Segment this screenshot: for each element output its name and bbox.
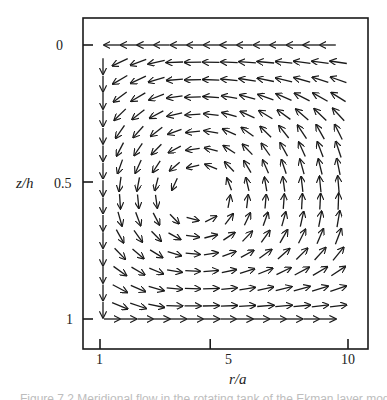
vector-arrow xyxy=(132,110,144,120)
vector-arrow xyxy=(294,61,311,63)
vector-arrow xyxy=(113,285,128,293)
vector-arrow xyxy=(116,230,123,243)
figure-caption: Figure 7.2 Meridional flow in the rotati… xyxy=(20,391,387,400)
y-axis-title: z/h xyxy=(16,176,34,191)
vector-arrow xyxy=(113,92,126,102)
vector-arrow xyxy=(153,213,159,225)
vector-arrow xyxy=(118,212,122,226)
vector-arrow xyxy=(167,96,183,98)
vector-arrow xyxy=(204,235,217,239)
vector-arrow xyxy=(167,113,182,116)
vector-arrow xyxy=(168,146,180,153)
vector-arrow xyxy=(313,267,328,276)
vector-arrow xyxy=(261,143,270,155)
vector-arrow xyxy=(133,249,144,259)
vector-arrow xyxy=(336,141,341,157)
vector-arrow xyxy=(148,304,164,307)
vector-arrow xyxy=(119,177,121,192)
vector-arrow xyxy=(331,266,345,275)
x-tick-label-5: 5 xyxy=(225,353,232,367)
vector-arrow xyxy=(281,160,286,174)
vector-arrow xyxy=(134,230,142,242)
vector-arrow xyxy=(260,127,271,138)
vector-arrow xyxy=(150,111,164,118)
x-tick-label-10: 10 xyxy=(341,353,355,367)
vector-arrow xyxy=(276,94,291,101)
vector-arrow xyxy=(187,217,199,220)
vector-arrow xyxy=(319,176,321,192)
vector-arrow xyxy=(223,129,236,135)
vector-arrow xyxy=(330,77,346,83)
vector-arrow xyxy=(317,229,323,244)
vector-arrow xyxy=(114,109,126,120)
vector-arrow xyxy=(298,125,307,139)
vector-arrow xyxy=(239,62,256,63)
vector-arrow xyxy=(152,231,162,241)
vector-arrow xyxy=(300,211,303,226)
vector-arrow xyxy=(170,162,180,171)
vector-arrow xyxy=(204,148,217,151)
vector-arrow xyxy=(295,267,310,275)
vector-arrow xyxy=(312,305,329,307)
vector-arrow xyxy=(242,144,252,154)
vector-arrow xyxy=(149,94,164,100)
vector-arrow xyxy=(319,211,322,227)
vector-arrow xyxy=(221,62,238,63)
vector-arrow xyxy=(301,177,303,192)
vector-arrow xyxy=(223,146,235,154)
vector-arrow xyxy=(221,79,238,81)
vector-arrow xyxy=(240,269,255,274)
vector-arrow xyxy=(131,285,146,291)
vector-arrow xyxy=(138,195,139,209)
vector-arrow xyxy=(299,142,306,157)
vector-arrow xyxy=(205,164,217,169)
vector-arrow xyxy=(335,124,343,139)
vector-arrow xyxy=(166,306,182,307)
vector-arrow xyxy=(318,159,322,175)
vector-arrow xyxy=(131,76,146,83)
vector-arrow xyxy=(185,97,201,98)
vector-arrow xyxy=(294,305,311,307)
vector-arrow xyxy=(228,195,230,208)
vector-arrow xyxy=(170,214,179,224)
vector-arrow xyxy=(261,230,270,242)
vector-arrow xyxy=(246,178,249,191)
vector-arrow xyxy=(241,128,253,137)
vector-arrow xyxy=(317,142,323,157)
vector-arrow xyxy=(314,109,326,121)
vector-arrow xyxy=(282,212,286,226)
vector-arrow xyxy=(222,251,236,256)
vector-arrow xyxy=(333,108,345,121)
vector-arrow xyxy=(337,158,340,175)
vector-arrow xyxy=(221,96,237,99)
vector-arrow xyxy=(275,61,292,63)
vector-arrow xyxy=(221,288,237,290)
vector-arrow xyxy=(204,270,219,271)
vector-arrow xyxy=(149,286,164,290)
vector-arrow xyxy=(331,93,345,102)
vector-arrow xyxy=(279,126,289,138)
vector-arrow xyxy=(313,93,328,101)
vector-arrow xyxy=(203,97,219,98)
vector-arrow xyxy=(172,178,177,190)
vector-arrow xyxy=(244,161,251,173)
vector-arrow xyxy=(280,230,288,243)
vector-arrow xyxy=(294,286,310,291)
vector-arrow xyxy=(258,94,274,100)
plot-frame xyxy=(83,18,368,349)
vector-arrow xyxy=(276,78,293,82)
vector-arrow xyxy=(223,232,235,240)
vector-arrow xyxy=(186,235,199,237)
axis-ticks xyxy=(83,45,348,349)
vector-arrow xyxy=(166,62,183,63)
vector-arrow xyxy=(258,268,273,274)
vector-arrow xyxy=(204,131,218,134)
vector-arrow xyxy=(240,287,256,290)
vector-arrow xyxy=(278,249,290,259)
vector-arrow xyxy=(130,59,146,65)
vector-arrow xyxy=(258,287,274,290)
vector-arrow xyxy=(117,143,124,157)
vector-arrow xyxy=(120,194,121,209)
vector-arrow xyxy=(300,159,304,174)
vector-arrow xyxy=(296,248,307,259)
